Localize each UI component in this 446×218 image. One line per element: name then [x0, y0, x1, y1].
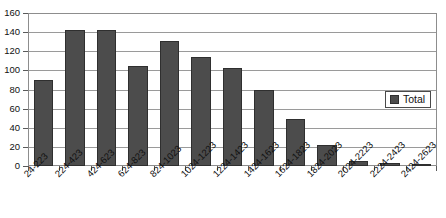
y-tick-label: 60	[9, 104, 20, 114]
legend-swatch-total	[390, 95, 399, 104]
bar-chart: 020406080100120140160 24-223224-423424-6…	[0, 0, 446, 218]
chart-legend: Total	[385, 91, 431, 108]
y-tick-label: 160	[4, 8, 20, 18]
legend-label-total: Total	[403, 94, 425, 105]
y-tick-label: 100	[4, 65, 20, 75]
y-tick-label: 120	[4, 46, 20, 56]
bar	[65, 30, 85, 166]
y-tick-label: 40	[9, 123, 20, 133]
y-tick-label: 20	[9, 142, 20, 152]
y-tick-label: 140	[4, 27, 20, 37]
y-tick-label: 80	[9, 85, 20, 95]
x-axis: 24-223224-423424-623624-823824-10231024-…	[0, 166, 446, 218]
bars-layer	[28, 13, 437, 166]
bar	[97, 30, 117, 166]
